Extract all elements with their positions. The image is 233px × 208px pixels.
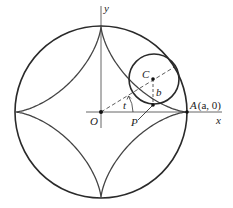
origin-point xyxy=(99,110,103,114)
radius-b-label: b xyxy=(156,86,162,98)
pointer-line-p xyxy=(138,105,153,120)
x-axis-label: x xyxy=(215,114,221,126)
center-c-point xyxy=(151,77,155,81)
y-axis-label: y xyxy=(103,2,109,14)
point-a-label: A(a, 0) xyxy=(189,99,221,112)
origin-label: O xyxy=(90,115,98,127)
point-on-curve xyxy=(151,103,155,107)
astroid-diagram: y x O C b t P A(a, 0) xyxy=(0,0,233,208)
point-a-name: A xyxy=(189,99,197,111)
point-p-label: P xyxy=(130,116,138,128)
angle-t-label: t xyxy=(123,99,127,111)
point-a xyxy=(185,110,189,114)
center-c-label: C xyxy=(142,68,150,80)
point-a-coords: (a, 0) xyxy=(198,99,222,112)
